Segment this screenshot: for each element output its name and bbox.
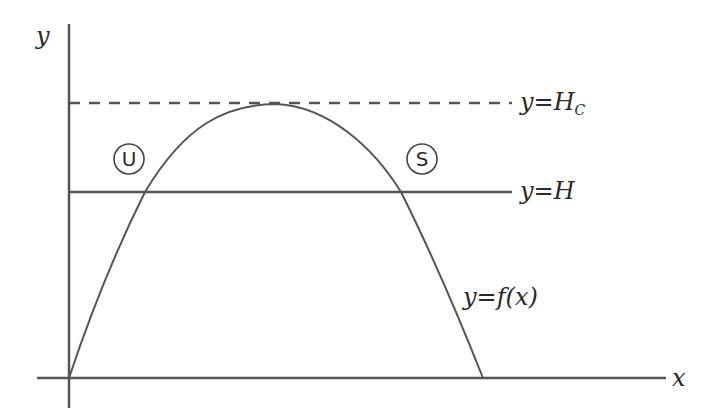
stable-point-label: S [416, 147, 429, 171]
diagram-canvas: y x y=HC y=H y=f(x) U S [0, 0, 721, 412]
unstable-point-marker: U [114, 144, 144, 174]
stable-point-marker: S [407, 144, 437, 174]
curve-f [69, 104, 483, 378]
y-axis-label: y [35, 22, 50, 50]
level-line-label: y=H [519, 177, 576, 205]
critical-line-label: y=HC [519, 88, 586, 118]
unstable-point-label: U [122, 147, 137, 171]
curve-label: y=f(x) [462, 283, 538, 311]
x-axis-label: x [672, 364, 686, 392]
